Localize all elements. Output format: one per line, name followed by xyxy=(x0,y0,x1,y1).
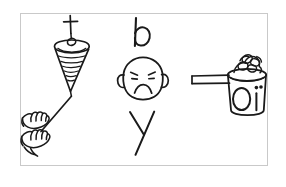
pot-dot xyxy=(259,85,263,89)
frown-mouth xyxy=(135,85,152,94)
letter-b-glyph xyxy=(135,18,150,46)
screenshot-canvas: b y oi xyxy=(0,0,286,187)
left-eye xyxy=(132,79,138,80)
left-eyebrow xyxy=(131,72,138,75)
panel-left xyxy=(21,16,89,157)
panel-right xyxy=(192,53,266,115)
pot-rim-inner xyxy=(230,78,263,82)
cone-body xyxy=(55,49,88,92)
right-eyebrow xyxy=(148,72,155,75)
face-outline xyxy=(123,57,163,99)
oval-bead xyxy=(67,37,77,46)
sad-face xyxy=(118,57,169,99)
cup-rim xyxy=(55,40,90,53)
cross-icon xyxy=(64,16,78,34)
line-drawing xyxy=(0,0,286,187)
pot-handle xyxy=(192,75,230,83)
pot-label-letter-i-dot xyxy=(255,86,259,90)
pot-label-letter-o xyxy=(233,88,250,110)
letter-y-glyph xyxy=(130,112,154,155)
panel-middle xyxy=(118,18,169,155)
pot-label-oi xyxy=(233,86,258,110)
praying-hands xyxy=(21,112,50,156)
